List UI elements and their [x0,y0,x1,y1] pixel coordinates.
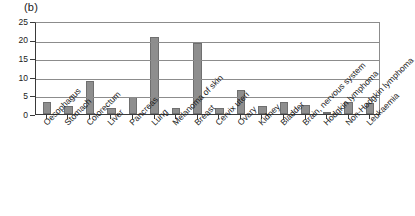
y-axis-tick [30,59,35,60]
x-axis-tick [369,115,370,119]
x-axis-tick [261,115,262,119]
y-axis-tick-label: 15 [19,55,28,64]
gridline [36,42,379,43]
x-axis-tick [67,115,68,119]
y-axis-tick-label: 25 [19,18,28,27]
x-axis-tick [305,115,306,119]
x-axis-tick [154,115,155,119]
y-axis-tick [30,115,35,116]
x-axis-tick [89,115,90,119]
y-axis-tick [30,22,35,23]
x-axis-tick [197,115,198,119]
x-axis-tick [110,115,111,119]
x-axis-tick [240,115,241,119]
y-axis-tick-label: 10 [19,74,28,83]
y-axis-tick [30,96,35,97]
x-axis-tick [46,115,47,119]
x-axis-tick [175,115,176,119]
y-axis-tick [30,41,35,42]
x-axis-tick [218,115,219,119]
y-axis-tick [30,78,35,79]
x-axis-tick [348,115,349,119]
gridline [36,60,379,61]
y-axis-tick-label: 0 [23,111,28,120]
x-axis-tick [326,115,327,119]
gridline [36,79,379,80]
y-axis-labels: 0510152025 [0,0,28,216]
y-axis-tick-label: 20 [19,36,28,45]
x-axis-tick [132,115,133,119]
x-axis-tick [283,115,284,119]
y-axis-tick-label: 5 [23,92,28,101]
